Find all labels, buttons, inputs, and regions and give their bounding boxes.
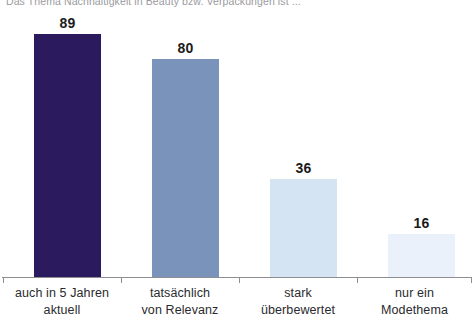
bar-value-2: 36 [270, 160, 337, 176]
axis-tick-4 [471, 278, 472, 283]
bar-group-1: 80 [152, 10, 219, 278]
category-label-2-line-0: stark [239, 285, 357, 302]
category-label-1: tatsächlich von Relevanz [121, 285, 239, 318]
category-label-0-line-0: auch in 5 Jahren [3, 285, 121, 302]
category-label-3-line-1: Modethema [357, 302, 472, 319]
bar-0[interactable] [34, 34, 101, 278]
bar-value-3: 16 [388, 215, 455, 231]
category-label-2: stark überbewertet [239, 285, 357, 318]
bar-2[interactable] [270, 179, 337, 278]
chart-title: Das Thema Nachhaltigkeit in Beauty bzw. … [6, 0, 472, 7]
bar-group-3: 16 [388, 10, 455, 278]
x-axis-line [2, 277, 472, 278]
bar-chart: Das Thema Nachhaltigkeit in Beauty bzw. … [0, 0, 474, 322]
category-label-3-line-0: nur ein [357, 285, 472, 302]
bar-value-0: 89 [34, 15, 101, 31]
category-label-0: auch in 5 Jahren aktuell [3, 285, 121, 318]
category-label-3: nur ein Modethema [357, 285, 472, 318]
bar-group-0: 89 [34, 10, 101, 278]
bar-value-1: 80 [152, 40, 219, 56]
bar-1[interactable] [152, 59, 219, 278]
axis-tick-2 [239, 278, 240, 283]
axis-tick-1 [121, 278, 122, 283]
plot-area: 89 80 36 16 [0, 10, 474, 278]
category-label-1-line-1: von Relevanz [121, 302, 239, 319]
category-label-2-line-1: überbewertet [239, 302, 357, 319]
axis-tick-0 [3, 278, 4, 283]
axis-tick-3 [357, 278, 358, 283]
bar-group-2: 36 [270, 10, 337, 278]
category-label-0-line-1: aktuell [3, 302, 121, 319]
category-label-1-line-0: tatsächlich [121, 285, 239, 302]
category-label-row: auch in 5 Jahren aktuell tatsächlich von… [0, 285, 474, 322]
bar-3[interactable] [388, 234, 455, 278]
